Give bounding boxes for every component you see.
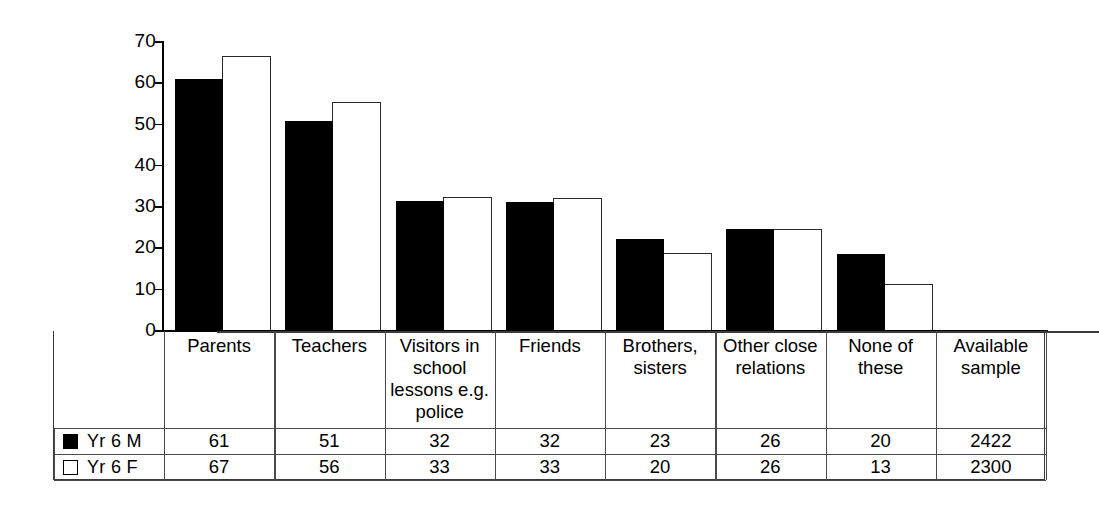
y-tick-mark <box>155 124 163 126</box>
bar-yr6f <box>443 197 492 331</box>
bar-group <box>616 42 714 331</box>
column-header-line: school <box>389 357 491 379</box>
bar-yr6m <box>175 79 223 331</box>
column-header-line: Teachers <box>278 335 380 357</box>
table-cell: 51 <box>274 428 384 454</box>
bar-yr6m <box>285 121 333 331</box>
table-cell: 67 <box>164 454 274 480</box>
y-tick-label: 30 <box>96 196 156 215</box>
table-cell: 56 <box>274 454 384 480</box>
y-tick-mark <box>155 41 163 43</box>
table-row-divider <box>54 480 1046 481</box>
y-tick-label: 40 <box>96 155 156 174</box>
column-header: Brothers,sisters <box>605 331 715 428</box>
column-header: Parents <box>164 331 274 428</box>
y-tick-label: 60 <box>96 72 156 91</box>
table-cell: 32 <box>495 428 605 454</box>
column-header: None of these <box>826 331 936 428</box>
column-header: Teachers <box>274 331 384 428</box>
data-table: ParentsTeachersVisitors inschoollessons … <box>53 331 1045 480</box>
column-header-line: lessons e.g. <box>389 379 491 401</box>
bar-group <box>726 42 824 331</box>
bar-group <box>175 42 273 331</box>
table-cell: 26 <box>715 428 825 454</box>
bar-yr6m <box>837 254 885 331</box>
bar-yr6m <box>396 201 444 331</box>
bar-yr6f <box>884 284 933 331</box>
table-cell: 20 <box>826 428 936 454</box>
y-tick-label: 10 <box>96 279 156 298</box>
bar-yr6f <box>222 56 271 331</box>
column-header: Other closerelations <box>715 331 825 428</box>
legend-label: Yr 6 F <box>87 457 138 478</box>
y-tick-label: 70 <box>96 31 156 50</box>
column-header: Visitors inschoollessons e.g.police <box>385 331 495 428</box>
y-tick-mark <box>155 289 163 291</box>
y-tick-mark <box>155 82 163 84</box>
table-cell: 33 <box>385 454 495 480</box>
bar-yr6m <box>726 229 774 331</box>
table-cell: 33 <box>495 454 605 480</box>
column-header-line: None of these <box>830 335 932 379</box>
column-header-line: Brothers, <box>609 335 711 357</box>
bar-group <box>506 42 604 331</box>
table-cell: 2300 <box>936 454 1046 480</box>
legend-label: Yr 6 M <box>87 431 142 452</box>
bar-group <box>396 42 494 331</box>
bar-yr6f <box>553 198 602 331</box>
bar-yr6m <box>506 202 554 331</box>
table-cell: 32 <box>385 428 495 454</box>
legend-swatch-outline-icon <box>63 460 78 475</box>
y-tick-mark <box>155 247 163 249</box>
plot-area <box>163 42 1045 331</box>
table-cell: 20 <box>605 454 715 480</box>
legend-row-yr6m: Yr 6 M <box>54 428 164 454</box>
column-header-line: relations <box>719 357 821 379</box>
y-tick-mark <box>155 206 163 208</box>
table-cell: 2422 <box>936 428 1046 454</box>
column-header-line: sample <box>940 357 1042 379</box>
column-header-line: Visitors in <box>389 335 491 357</box>
column-header-line: police <box>389 401 491 423</box>
column-header-line: Available <box>940 335 1042 357</box>
column-header: Availablesample <box>936 331 1046 428</box>
column-header-line: Parents <box>168 335 270 357</box>
column-header: Friends <box>495 331 605 428</box>
y-tick-mark <box>155 165 163 167</box>
column-header-line: Other close <box>719 335 821 357</box>
legend-row-yr6f: Yr 6 F <box>54 454 164 480</box>
bar-yr6f <box>663 253 712 331</box>
y-tick-label: 50 <box>96 114 156 133</box>
column-header-line: Friends <box>499 335 601 357</box>
table-column-divider <box>1046 331 1047 480</box>
legend-swatch-filled-icon <box>63 434 78 449</box>
bar-group <box>837 42 935 331</box>
table-cell: 61 <box>164 428 274 454</box>
bar-yr6f <box>332 102 381 331</box>
column-header-line: sisters <box>609 357 711 379</box>
table-cell: 23 <box>605 428 715 454</box>
bar-yr6m <box>616 239 664 331</box>
y-tick-label: 20 <box>96 237 156 256</box>
bar-yr6f <box>773 229 822 331</box>
table-cell: 26 <box>715 454 825 480</box>
table-cell: 13 <box>826 454 936 480</box>
bar-group <box>285 42 383 331</box>
